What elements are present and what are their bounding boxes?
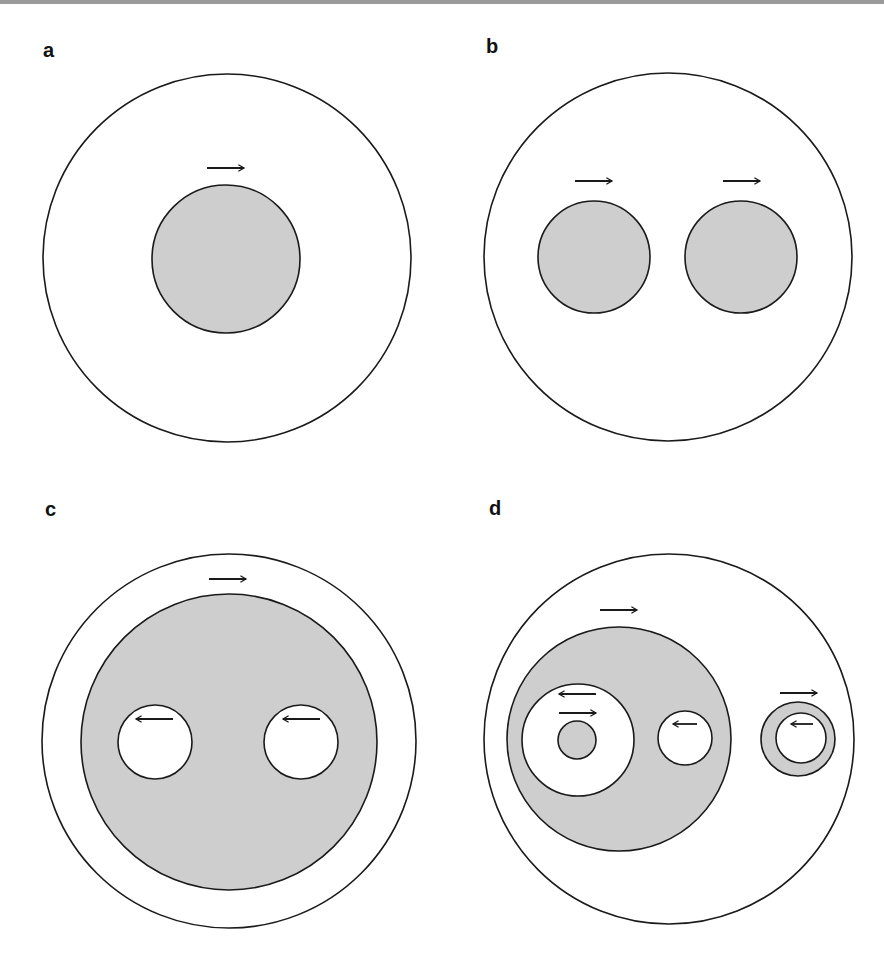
gray-disk [152,185,300,333]
diagram-canvas: a b c d [0,0,884,960]
white-hole-small [658,711,712,765]
white-hole-right [264,705,338,779]
panel-b: b [484,35,852,441]
white-hole-left [118,705,192,779]
panel-label-c: c [45,498,56,520]
panel-a: a [43,39,411,442]
gray-disk-small [558,721,596,759]
panel-d: d [484,497,854,924]
panel-c: c [42,498,416,928]
panel-label-d: d [489,497,501,519]
white-hole-ring [776,713,826,763]
gray-disk-left [538,201,650,313]
panel-label-a: a [43,39,55,61]
gray-disk-right [685,201,797,313]
panel-label-b: b [486,35,498,57]
